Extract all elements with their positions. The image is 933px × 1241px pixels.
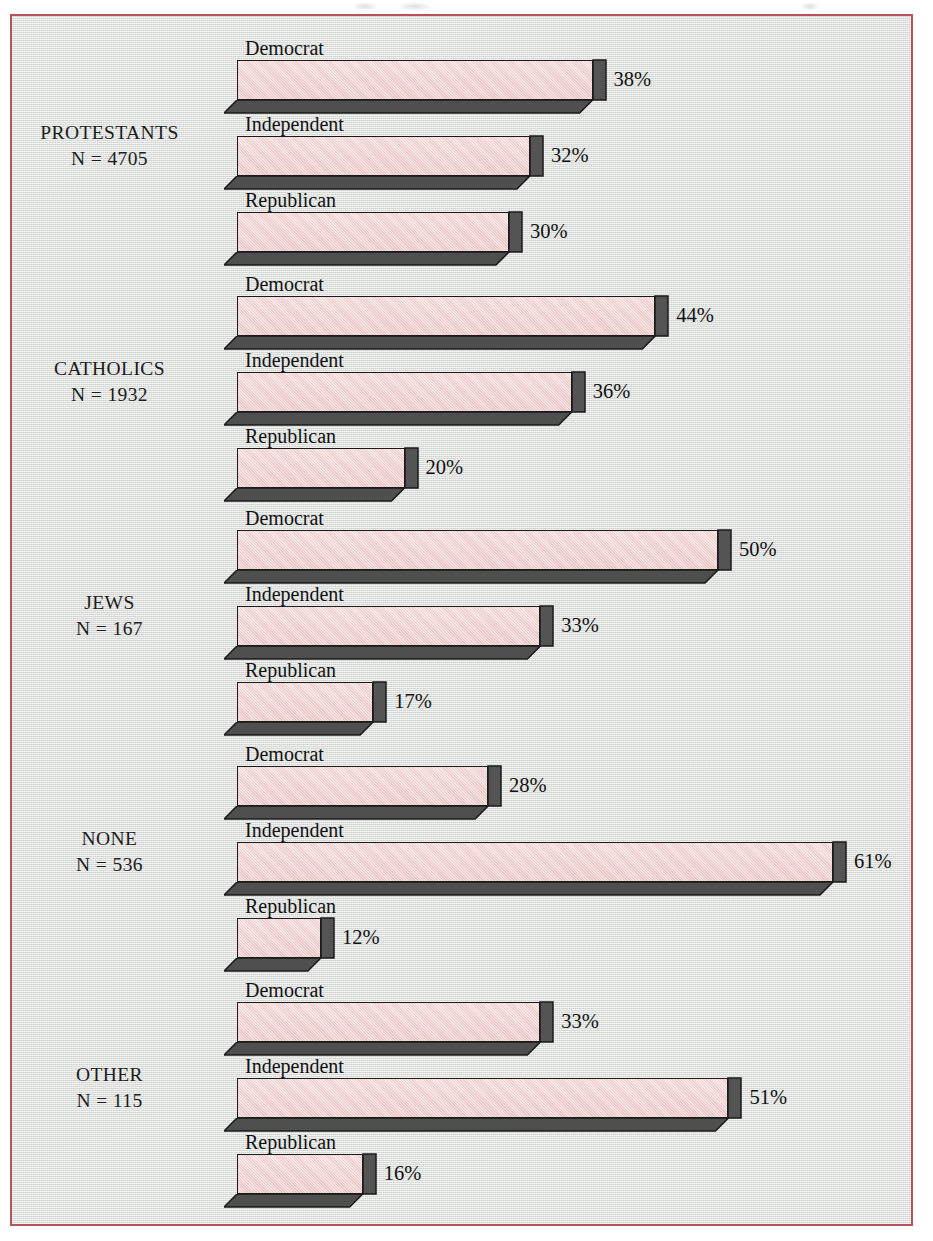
bar-item[interactable]: Independent36% — [237, 350, 675, 427]
bar-front-face[interactable] — [237, 918, 321, 958]
group-label: CATHOLICSN = 1932 — [12, 356, 207, 407]
chart-frame: PROTESTANTSN = 4705Democrat38%Independen… — [10, 14, 913, 1226]
bar-item[interactable]: Republican30% — [237, 190, 612, 267]
group-label: PROTESTANTSN = 4705 — [12, 120, 207, 171]
bar-3d-body — [237, 1078, 741, 1131]
bar-front-face[interactable] — [237, 296, 655, 336]
bar-front-face[interactable] — [237, 372, 572, 412]
bar-front-face[interactable] — [237, 530, 718, 570]
bar-3d-body — [237, 448, 418, 501]
bar-series-label: Republican — [245, 896, 336, 916]
bar-series-label: Democrat — [245, 744, 324, 764]
bar-side-face — [363, 1154, 379, 1210]
bar-value-label: 38% — [614, 69, 652, 90]
bar-value-label: 33% — [561, 1011, 599, 1032]
bar-3d-body — [237, 530, 731, 583]
bar-3d-body — [237, 372, 585, 425]
bar-front-face[interactable] — [237, 842, 833, 882]
bar-value-label: 30% — [530, 221, 568, 242]
bar-side-face — [728, 1078, 744, 1134]
bar-side-face — [833, 842, 849, 898]
bar-side-face — [540, 1002, 556, 1058]
bar-value-label: 17% — [394, 691, 432, 712]
bar-series-label: Democrat — [245, 980, 324, 1000]
bar-item[interactable]: Democrat44% — [237, 274, 758, 351]
bar-value-label: 44% — [676, 305, 714, 326]
group-name: JEWS — [12, 590, 207, 616]
bar-bottom-face — [224, 722, 376, 738]
scanned-page: PROTESTANTSN = 4705Democrat38%Independen… — [0, 0, 933, 1241]
bar-value-label: 28% — [509, 775, 547, 796]
bar-series-label: Democrat — [245, 38, 324, 58]
bar-item[interactable]: Democrat38% — [237, 38, 696, 115]
group-label: JEWSN = 167 — [12, 590, 207, 641]
bar-side-face — [572, 372, 588, 428]
group-label: OTHERN = 115 — [12, 1062, 207, 1113]
group-sample-size: N = 167 — [12, 616, 207, 642]
bar-item[interactable]: Independent32% — [237, 114, 633, 191]
bar-3d-body — [237, 296, 668, 349]
bar-chart: PROTESTANTSN = 4705Democrat38%Independen… — [12, 16, 911, 1224]
bar-side-face — [530, 136, 546, 192]
bar-3d-body — [237, 136, 543, 189]
bar-series-label: Republican — [245, 1132, 336, 1152]
bar-side-face — [655, 296, 671, 352]
bar-front-face[interactable] — [237, 60, 593, 100]
bar-value-label: 50% — [739, 539, 777, 560]
bar-value-label: 20% — [426, 457, 464, 478]
bar-3d-body — [237, 766, 501, 819]
scan-artifact-strip — [0, 0, 933, 14]
bar-series-label: Republican — [245, 660, 336, 680]
group-sample-size: N = 115 — [12, 1088, 207, 1114]
bar-3d-body — [237, 1154, 376, 1207]
bar-value-label: 61% — [854, 851, 892, 872]
bar-item[interactable]: Independent33% — [237, 584, 643, 661]
bar-item[interactable]: Democrat28% — [237, 744, 591, 821]
bar-item[interactable]: Independent51% — [237, 1056, 831, 1133]
bar-series-label: Independent — [245, 1056, 344, 1076]
bar-item[interactable]: Republican20% — [237, 426, 508, 503]
group-name: OTHER — [12, 1062, 207, 1088]
bar-bottom-face — [224, 488, 408, 504]
bar-series-label: Independent — [245, 114, 344, 134]
group-sample-size: N = 1932 — [12, 382, 207, 408]
bar-side-face — [405, 448, 421, 504]
bar-value-label: 32% — [551, 145, 589, 166]
bar-front-face[interactable] — [237, 766, 488, 806]
bar-front-face[interactable] — [237, 448, 405, 488]
group-name: NONE — [12, 826, 207, 852]
bar-item[interactable]: Democrat33% — [237, 980, 643, 1057]
bar-item[interactable]: Republican16% — [237, 1132, 466, 1209]
bar-side-face — [321, 918, 337, 974]
bar-front-face[interactable] — [237, 1078, 728, 1118]
group-name: CATHOLICS — [12, 356, 207, 382]
bar-bottom-face — [224, 1194, 366, 1210]
bar-front-face[interactable] — [237, 606, 540, 646]
bar-side-face — [540, 606, 556, 662]
bar-front-face[interactable] — [237, 136, 530, 176]
bar-item[interactable]: Independent61% — [237, 820, 933, 897]
bar-3d-body — [237, 1002, 553, 1055]
bar-side-face — [509, 212, 525, 268]
group-label: NONEN = 536 — [12, 826, 207, 877]
bar-side-face — [373, 682, 389, 738]
bar-series-label: Republican — [245, 426, 336, 446]
bar-value-label: 16% — [384, 1163, 422, 1184]
bar-front-face[interactable] — [237, 682, 373, 722]
bar-3d-body — [237, 842, 846, 895]
bar-series-label: Democrat — [245, 508, 324, 528]
bar-side-face — [593, 60, 609, 116]
bar-value-label: 12% — [342, 927, 380, 948]
bar-front-face[interactable] — [237, 1154, 363, 1194]
group-sample-size: N = 536 — [12, 852, 207, 878]
bar-item[interactable]: Republican17% — [237, 660, 476, 737]
bar-item[interactable]: Republican12% — [237, 896, 424, 973]
bar-front-face[interactable] — [237, 1002, 540, 1042]
bar-bottom-face — [224, 252, 512, 268]
bar-side-face — [718, 530, 734, 586]
bar-value-label: 51% — [749, 1087, 787, 1108]
bar-bottom-face — [224, 958, 324, 974]
bar-front-face[interactable] — [237, 212, 509, 252]
group-name: PROTESTANTS — [12, 120, 207, 146]
bar-item[interactable]: Democrat50% — [237, 508, 821, 585]
